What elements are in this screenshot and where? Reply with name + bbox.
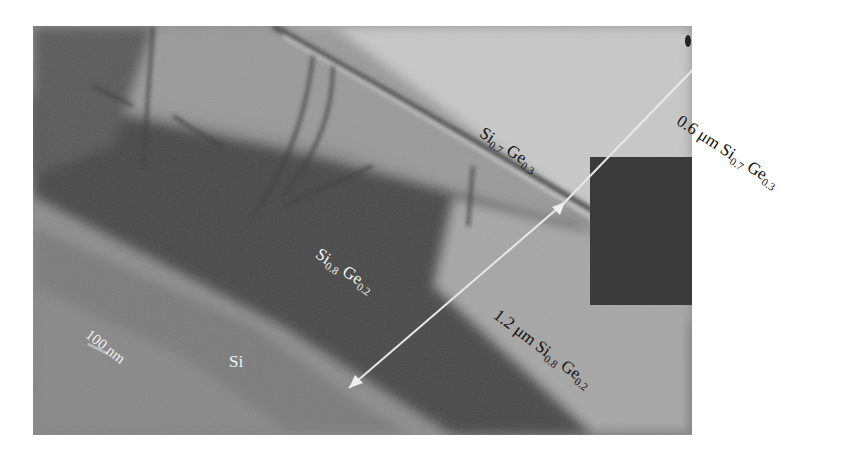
label-substrate: Si	[229, 353, 243, 370]
tem-figure: Si0.7 Ge0.3 0.6 μm Si0.7 Ge0.3 Si0.8 Ge0…	[0, 0, 845, 457]
micrograph-image	[33, 26, 692, 435]
tem-micrograph	[33, 26, 692, 435]
overlay-box	[590, 157, 692, 305]
